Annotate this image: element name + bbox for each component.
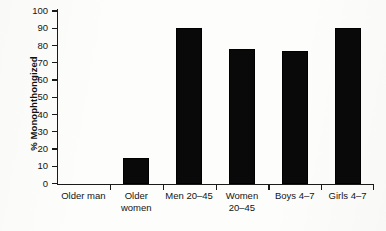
y-tick-label: 10	[8, 161, 48, 171]
x-tick-mark	[321, 185, 322, 190]
x-category-label-line: Older	[125, 190, 148, 201]
y-tick-mark	[52, 166, 57, 167]
y-tick-mark	[52, 62, 57, 63]
x-tick-mark	[110, 185, 111, 190]
y-tick-mark	[52, 131, 57, 132]
y-tick-mark	[52, 28, 57, 29]
y-tick-mark	[52, 97, 57, 98]
y-tick-label: 0	[8, 179, 48, 189]
x-category-label-line: 20–45	[210, 202, 275, 214]
y-tick-mark	[52, 79, 57, 80]
y-tick-label: 90	[8, 23, 48, 33]
y-tick-label: 30	[8, 127, 48, 137]
y-axis-line	[57, 9, 58, 185]
x-tick-mark	[268, 185, 269, 190]
x-category-label-line: Men 20–45	[165, 190, 213, 201]
bar	[229, 49, 255, 184]
x-tick-mark	[216, 185, 217, 190]
y-tick-mark	[52, 183, 57, 184]
bar	[176, 28, 202, 183]
x-category-label-line: Girls 4–7	[329, 190, 367, 201]
y-tick-label: 20	[8, 144, 48, 154]
y-tick-label: 40	[8, 110, 48, 120]
y-tick-label: 100	[8, 6, 48, 16]
x-category-label-line: Women	[226, 190, 259, 201]
y-tick-label: 60	[8, 75, 48, 85]
bar	[282, 51, 308, 184]
y-tick-mark	[52, 114, 57, 115]
x-tick-mark	[163, 185, 164, 190]
y-tick-label: 80	[8, 41, 48, 51]
y-tick-mark	[52, 10, 57, 11]
x-category-label-line: women	[104, 202, 169, 214]
x-category-label-line: Boys 4–7	[275, 190, 315, 201]
bar	[335, 28, 361, 183]
y-tick-mark	[52, 45, 57, 46]
x-tick-mark	[373, 185, 374, 190]
y-tick-mark	[52, 148, 57, 149]
x-category-label-line: Older man	[61, 190, 105, 201]
y-tick-label: 50	[8, 92, 48, 102]
y-tick-label: 70	[8, 58, 48, 68]
bar-chart: % Monophthongized 0102030405060708090100…	[0, 0, 386, 231]
x-category-label: Girls 4–7	[315, 190, 380, 202]
bar	[123, 158, 149, 184]
